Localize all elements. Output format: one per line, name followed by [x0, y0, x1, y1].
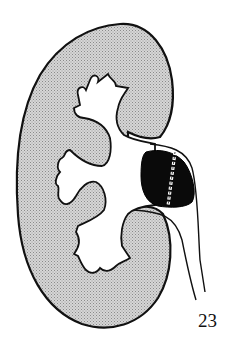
- kidney-diagram: [0, 0, 237, 346]
- figure-number: 23: [198, 310, 217, 332]
